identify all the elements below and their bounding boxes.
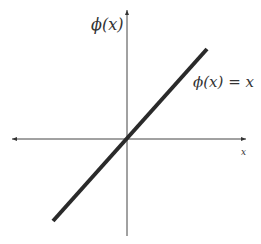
identity-line xyxy=(53,49,207,221)
identity-function-plot: ϕ(x) ϕ(x) = x x xyxy=(0,0,261,244)
x-axis-label: x xyxy=(241,147,246,157)
curve-label: ϕ(x) = x xyxy=(193,73,254,91)
y-axis-label: ϕ(x) xyxy=(91,15,123,34)
